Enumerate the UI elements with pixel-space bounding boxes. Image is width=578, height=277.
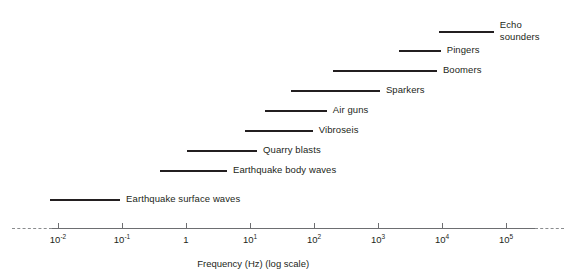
range-bar <box>160 170 227 172</box>
axis-tick-label: 1 <box>183 234 188 245</box>
axis-tick <box>442 223 443 228</box>
axis-solid-line <box>52 228 535 229</box>
axis-tick-label: 10-1 <box>114 234 130 245</box>
range-bar-label: Boomers <box>443 64 482 76</box>
axis-tick-label: 104 <box>435 234 449 245</box>
axis-tick <box>250 223 251 228</box>
axis-tick <box>186 223 187 228</box>
axis-tick-label: 101 <box>243 234 257 245</box>
range-bar <box>50 199 120 201</box>
axis-tick-label: 105 <box>499 234 513 245</box>
range-bar-label: Sparkers <box>386 84 425 96</box>
axis-tick <box>378 223 379 228</box>
frequency-range-chart: Echo soundersPingersBoomersSparkersAir g… <box>0 0 578 277</box>
range-bar-label: Pingers <box>447 44 480 56</box>
axis-tick-label: 10-2 <box>50 234 66 245</box>
axis-tick-label: 103 <box>371 234 385 245</box>
axis-dashed-left <box>12 228 52 229</box>
axis-tick <box>314 223 315 228</box>
range-bar <box>265 110 327 112</box>
axis-tick <box>506 223 507 228</box>
range-bar <box>291 90 380 92</box>
range-bar <box>187 150 257 152</box>
range-bar <box>333 70 437 72</box>
axis-dashed-right <box>535 228 564 229</box>
x-axis-title: Frequency (Hz) (log scale) <box>197 258 309 270</box>
range-bar-label: Echo sounders <box>500 19 540 42</box>
range-bar-label: Vibroseis <box>319 124 359 136</box>
range-bar-label: Earthquake surface waves <box>126 193 240 205</box>
axis-tick <box>58 223 59 228</box>
range-bar-label: Quarry blasts <box>263 144 321 156</box>
range-bar-label: Earthquake body waves <box>233 164 336 176</box>
range-bar <box>245 130 313 132</box>
axis-tick <box>122 223 123 228</box>
range-bar-label: Air guns <box>333 104 369 116</box>
range-bar <box>439 31 493 33</box>
range-bar <box>399 50 441 52</box>
axis-tick-label: 102 <box>307 234 321 245</box>
